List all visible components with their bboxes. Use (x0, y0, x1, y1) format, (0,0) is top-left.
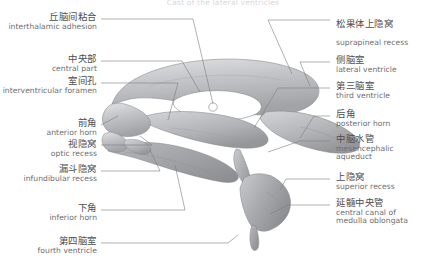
label-en: anterior horn (0, 129, 97, 138)
leader-inferior-horn (101, 165, 185, 210)
label-fourth-ventricle: 第四脑室 fourth ventricle (0, 236, 97, 255)
leader-posterior-horn (300, 116, 330, 138)
label-en: central canal of medulla oblongata (336, 209, 425, 226)
label-inferior-horn: 下角 inferior horn (0, 203, 97, 222)
label-cn: 室间孔 (0, 76, 97, 87)
label-suprapineal-recess: 松果体上隐窝 suprapineal recess (336, 13, 425, 49)
leader-anterior-horn (101, 116, 118, 125)
label-en: inferior horn (0, 214, 97, 223)
label-lateral-ventricle: 侧脑室 lateral ventricle (336, 55, 425, 74)
label-interventricular-foramen: 室间孔 interventricular foramen (0, 76, 97, 95)
label-superior-recess: 上隐窝 superior recess (336, 172, 425, 191)
label-infundibular-recess: 漏斗隐窝 infundibular recess (0, 164, 97, 183)
label-cn: 中央部 (0, 54, 97, 65)
leader-mesencephalic-aqueduct (268, 141, 330, 152)
label-en: mesencephalic aqueduct (336, 145, 425, 162)
label-en: suprapineal recess (336, 38, 408, 47)
leader-interventricular-foramen (101, 83, 178, 120)
label-en: interthalamic adhesion (0, 23, 97, 32)
label-cn: 后角 (336, 109, 425, 120)
label-cn: 第三脑室 (336, 81, 425, 92)
label-cn: 前角 (0, 118, 97, 129)
label-cn: 丘脑间粘合 (0, 12, 97, 23)
leader-superior-recess (280, 179, 330, 190)
leader-lateral-ventricle (300, 62, 330, 86)
leader-suprapineal-recess (268, 20, 330, 74)
label-central-canal-medulla: 延髓中央管 central canal of medulla oblongata (336, 198, 425, 226)
label-cn: 中脑水管 (336, 134, 425, 145)
label-en: lateral ventricle (336, 66, 425, 75)
diagram-canvas: Cast of the lateral ventricles (0, 0, 425, 276)
label-anterior-horn: 前角 anterior horn (0, 118, 97, 137)
label-cn: 视隐窝 (0, 139, 97, 150)
label-optic-recess: 视隐窝 optic recess (0, 139, 97, 158)
label-posterior-horn: 后角 posterior horn (336, 109, 425, 128)
label-en: fourth ventricle (0, 247, 97, 256)
label-en: interventricular foramen (0, 87, 97, 96)
leader-fourth-ventricle (101, 235, 238, 243)
label-cn: 松果体上隐窝 (336, 18, 394, 29)
label-en: third ventricle (336, 92, 425, 101)
label-en: central part (0, 65, 97, 74)
label-en: optic recess (0, 150, 97, 159)
leader-interthalamic-adhesion (101, 19, 213, 104)
label-interthalamic-adhesion: 丘脑间粘合 interthalamic adhesion (0, 12, 97, 31)
label-cn: 下角 (0, 203, 97, 214)
label-cn: 侧脑室 (336, 55, 425, 66)
leader-optic-recess (101, 136, 152, 145)
label-mesencephalic-aqueduct: 中脑水管 mesencephalic aqueduct (336, 134, 425, 162)
label-central-part: 中央部 central part (0, 54, 97, 73)
label-cn: 漏斗隐窝 (0, 164, 97, 175)
label-third-ventricle: 第三脑室 third ventricle (336, 81, 425, 100)
label-cn: 延髓中央管 (336, 198, 425, 209)
leader-third-ventricle (254, 88, 330, 128)
leader-central-part (101, 61, 200, 92)
leader-infundibular-recess (101, 150, 160, 171)
label-en: infundibular recess (0, 175, 97, 184)
label-cn: 第四脑室 (0, 236, 97, 247)
leader-central-canal (270, 205, 330, 214)
label-en: posterior horn (336, 120, 425, 129)
label-en: superior recess (336, 183, 425, 192)
label-cn: 上隐窝 (336, 172, 425, 183)
